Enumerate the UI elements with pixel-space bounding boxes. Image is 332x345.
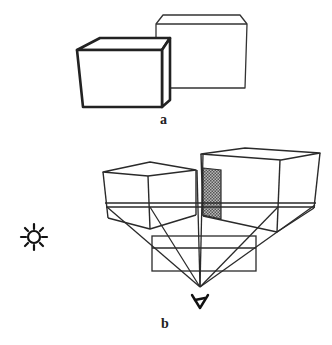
panel-b-left-box [103, 162, 196, 229]
panel-b-label: b [161, 316, 169, 332]
figure-canvas [0, 0, 332, 345]
eye-icon [192, 295, 208, 308]
shaded-face [203, 168, 221, 219]
panel-a-label: a [160, 112, 167, 128]
sun-icon [21, 224, 47, 250]
panel-a-left-box [77, 38, 170, 107]
projected-rectangle [152, 236, 256, 271]
